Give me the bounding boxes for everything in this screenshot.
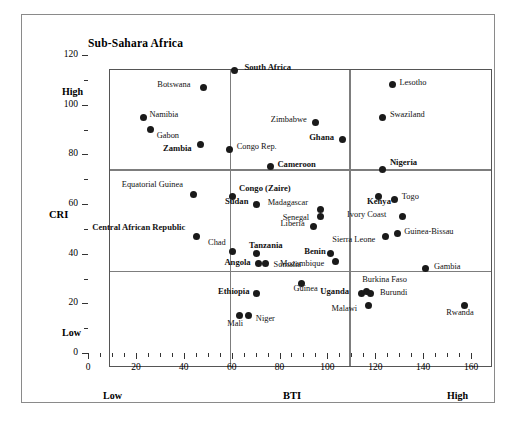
data-point[interactable] [140, 114, 147, 121]
x-axis-tick-label: 0 [68, 362, 108, 372]
data-point[interactable] [229, 248, 236, 255]
data-point[interactable] [190, 191, 197, 198]
x-axis-tick [315, 353, 316, 357]
data-point-label: Angola [224, 258, 250, 267]
x-axis-tick-label: 60 [212, 362, 252, 372]
data-point[interactable] [332, 258, 339, 265]
data-point-label: Rwanda [446, 308, 473, 317]
data-point[interactable] [389, 81, 396, 88]
x-axis-tick [148, 353, 149, 357]
data-point-label: Guinea [294, 284, 318, 293]
data-point[interactable] [253, 250, 260, 257]
data-point-label: Zimbabwe [271, 115, 307, 124]
x-axis-tick [268, 353, 269, 357]
data-point-label: Congo (Zaire) [239, 184, 291, 193]
x-axis-tick-label: 20 [116, 362, 156, 372]
data-point[interactable] [399, 213, 406, 220]
data-point-label: Madagascar [268, 198, 308, 207]
chart-frame: Sub-Sahara Africa CRI BTI High Low Low H… [21, 14, 495, 403]
data-point[interactable] [379, 166, 386, 173]
y-axis-tick [82, 55, 88, 56]
x-axis-tick [136, 353, 137, 359]
data-point[interactable] [310, 223, 317, 230]
data-point-label: Ivory Coast [347, 210, 386, 219]
data-point-label: Guinea-Bissau [404, 227, 453, 236]
quadrant-line-horizontal [110, 169, 491, 170]
y-axis-tick-label: 20 [38, 297, 78, 307]
x-axis-tick-label: 100 [307, 362, 347, 372]
x-axis-tick-label: 140 [403, 362, 443, 372]
x-axis-tick [256, 353, 257, 357]
data-point[interactable] [226, 146, 233, 153]
y-axis-tick-label: 80 [38, 148, 78, 158]
data-point[interactable] [367, 290, 374, 297]
data-point-label: Ghana [309, 133, 334, 142]
data-point[interactable] [245, 312, 252, 319]
data-point[interactable] [365, 302, 372, 309]
data-point-label: Equatorial Guinea [122, 180, 183, 189]
x-axis-tick [327, 353, 328, 359]
data-point-label: South Africa [244, 63, 291, 72]
data-point-label: Swaziland [390, 110, 425, 119]
y-axis-tick [84, 229, 88, 230]
data-point[interactable] [312, 119, 319, 126]
x-axis-tick [184, 353, 185, 359]
data-point[interactable] [394, 230, 401, 237]
y-axis-tick [82, 254, 88, 255]
data-point[interactable] [231, 67, 238, 74]
data-point-label: Malawi [332, 304, 358, 313]
data-point[interactable] [197, 141, 204, 148]
x-axis-tick [220, 353, 221, 357]
x-axis-high-label: High [447, 390, 468, 401]
data-point-label: Mali [227, 319, 243, 328]
data-point[interactable] [262, 260, 269, 267]
data-point[interactable] [379, 114, 386, 121]
x-axis-tick [387, 353, 388, 357]
data-point-label: Liberia [280, 219, 304, 228]
data-point[interactable] [339, 136, 346, 143]
x-axis-tick [244, 353, 245, 357]
data-point[interactable] [200, 84, 207, 91]
y-axis-tick [84, 279, 88, 280]
data-point[interactable] [327, 250, 334, 257]
data-point-label: Namibia [150, 110, 179, 119]
x-axis-low-label: Low [103, 390, 122, 401]
y-axis-tick-label: 100 [38, 99, 78, 109]
x-axis-title: BTI [283, 390, 301, 401]
data-point-label: Sierra Leone [332, 235, 375, 244]
quadrant-line-horizontal [110, 271, 491, 272]
data-point-label: Zambia [163, 144, 192, 153]
y-axis-tick-label: 120 [38, 49, 78, 59]
x-axis-tick [447, 353, 448, 357]
y-axis-tick [84, 130, 88, 131]
chart-title: Sub-Sahara Africa [88, 37, 183, 49]
data-point[interactable] [391, 196, 398, 203]
x-axis-tick [100, 353, 101, 357]
x-axis-tick [208, 353, 209, 357]
data-point[interactable] [253, 290, 260, 297]
x-axis-tick [399, 353, 400, 357]
x-axis-tick [411, 353, 412, 357]
data-point[interactable] [255, 260, 262, 267]
y-axis-tick-label: 0 [38, 347, 78, 357]
y-axis-tick [82, 303, 88, 304]
y-axis-tick [82, 105, 88, 106]
y-axis-tick [82, 154, 88, 155]
data-point[interactable] [317, 206, 324, 213]
data-point[interactable] [147, 126, 154, 133]
data-point[interactable] [382, 233, 389, 240]
data-point[interactable] [253, 201, 260, 208]
x-axis-tick [435, 353, 436, 357]
data-point-label: Togo [402, 192, 419, 201]
data-point-label: Gabon [157, 131, 179, 140]
data-point-label: Sudan [225, 197, 248, 206]
x-axis-tick [471, 353, 472, 359]
data-point[interactable] [358, 290, 365, 297]
data-point[interactable] [193, 233, 200, 240]
x-axis-tick [351, 353, 352, 357]
y-axis-tick [82, 353, 88, 354]
data-point-label: Chad [208, 238, 226, 247]
y-axis-low-label: Low [62, 327, 81, 338]
x-axis-tick [112, 353, 113, 357]
data-point[interactable] [317, 213, 324, 220]
